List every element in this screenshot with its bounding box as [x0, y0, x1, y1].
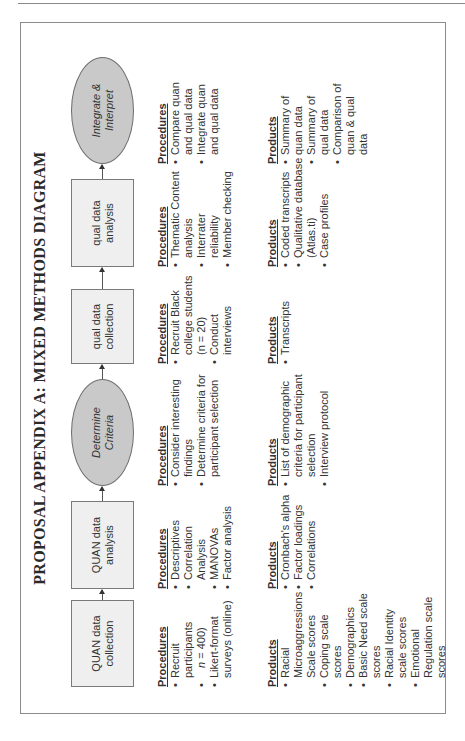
- list-item: Recruit Black college students (n = 20): [169, 264, 208, 364]
- list-item: Conduct interviews: [208, 305, 234, 364]
- list-item: Member checking: [221, 167, 234, 267]
- list-item: Recruit participants: [169, 592, 195, 687]
- products-quan-collection: Products Racial Microaggressions Scale s…: [266, 592, 448, 687]
- list-item: Emotional Regulation scale scores: [409, 592, 448, 687]
- node-quan-data-collection: QUAN data collection: [71, 600, 134, 687]
- procedures-header: Procedures: [156, 592, 169, 687]
- list-item: Summary of quan data: [279, 90, 305, 164]
- list-item: Factor analysis: [221, 494, 234, 589]
- list-item: Racial Microaggressions Scale scores: [279, 592, 318, 687]
- list-item: Correlation Analysis: [182, 520, 208, 589]
- diagram-frame: PROPOSAL APPENDIX A: MIXED METHODS DIAGR…: [20, 22, 446, 714]
- products-header: Products: [266, 264, 279, 364]
- list-item: Descriptives: [169, 494, 182, 589]
- list-item: Correlations: [305, 489, 318, 589]
- products-header: Products: [266, 592, 279, 687]
- arrow-connector: [102, 590, 103, 600]
- list-item: MANOVAs: [208, 494, 221, 589]
- list-item: n = 400): [195, 592, 208, 687]
- list-item: Coping scale scores: [318, 592, 344, 687]
- diagram-title: PROPOSAL APPENDIX A: MIXED METHODS DIAGR…: [31, 23, 49, 713]
- arrow-connector: [102, 365, 103, 379]
- node-qual-data-collection: qual data collection: [71, 289, 134, 364]
- procedures-quan-collection: Procedures Recruit participants n = 400)…: [156, 592, 234, 687]
- procedures-qual-analysis: Procedures Thematic Content analysis Int…: [156, 167, 234, 267]
- list-item: Compare quan and qual data: [169, 72, 195, 164]
- products-header: Products: [266, 489, 279, 589]
- list-item: Integrate quan and qual data: [195, 72, 221, 164]
- procedures-header: Procedures: [156, 494, 169, 589]
- node-quan-data-analysis: QUAN data analysis: [71, 501, 134, 589]
- node-qual-data-analysis: qual data analysis: [71, 179, 134, 267]
- list-item: List of demographic criteria for partici…: [279, 366, 318, 486]
- products-qual-collection: Products Transcripts: [266, 264, 292, 364]
- list-item: Interrater reliability: [195, 200, 221, 267]
- list-item: Cronbach's alpha: [279, 489, 292, 589]
- node-label: Integrate & Interpret: [90, 84, 116, 138]
- list-item: Demographics: [344, 592, 357, 687]
- products-header: Products: [266, 366, 279, 486]
- products-determine-criteria: Products List of demographic criteria fo…: [266, 366, 331, 486]
- list-item: Case profiles: [318, 157, 331, 267]
- arrow-connector: [102, 268, 103, 289]
- node-determine-criteria: Determine Criteria: [71, 379, 134, 486]
- procedures-header: Procedures: [156, 264, 169, 364]
- node-label: QUAN data analysis: [90, 517, 116, 573]
- arrow-connector: [102, 165, 103, 179]
- procedures-header: Procedures: [156, 72, 169, 164]
- list-item: Comparison of quan & qual data: [331, 72, 370, 164]
- procedures-quan-analysis: Procedures Descriptives Correlation Anal…: [156, 494, 234, 589]
- list-item: Consider interesting findings: [169, 361, 195, 486]
- procedures-determine-criteria: Procedures Consider interesting findings…: [156, 361, 221, 486]
- list-item: Qualitative database (Atlas.ti): [292, 157, 318, 267]
- page-top-rule: [18, 3, 465, 4]
- list-item: Coded transcripts: [279, 157, 292, 267]
- products-header: Products: [266, 72, 279, 164]
- arrow-connector: [102, 487, 103, 501]
- list-item: Likert-format surveys (online): [208, 592, 234, 687]
- node-label: qual data collection: [90, 304, 116, 350]
- list-item: Transcripts: [279, 264, 292, 364]
- node-label: qual data analysis: [90, 200, 116, 245]
- node-label: QUAN data collection: [90, 615, 116, 671]
- list-item: Factor loadings: [292, 489, 305, 589]
- node-label: Determine Criteria: [90, 407, 116, 458]
- list-item: Summary of qual data: [305, 90, 331, 164]
- list-item: Basic Need scale scores: [357, 592, 383, 687]
- products-quan-analysis: Products Cronbach's alpha Factor loading…: [266, 489, 318, 589]
- node-integrate-interpret: Integrate & Interpret: [71, 57, 134, 164]
- list-item: Racial Identity scale scores: [383, 592, 409, 687]
- list-item: Thematic Content analysis: [169, 167, 195, 267]
- list-item: Interview protocol: [318, 366, 331, 486]
- procedures-qual-collection: Procedures Recruit Black college student…: [156, 264, 234, 364]
- products-header: Products: [266, 157, 279, 267]
- procedures-header: Procedures: [156, 167, 169, 267]
- products-qual-analysis: Products Coded transcripts Qualitative d…: [266, 157, 331, 267]
- procedures-integrate: Procedures Compare quan and qual data In…: [156, 72, 221, 164]
- products-integrate: Products Summary of quan data Summary of…: [266, 72, 370, 164]
- procedures-header: Procedures: [156, 361, 169, 486]
- list-item: Determine criteria for participant selec…: [195, 361, 221, 486]
